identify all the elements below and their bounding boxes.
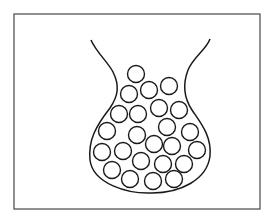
particle-circle [182, 124, 199, 141]
particle-circle [121, 86, 138, 103]
flask-diagram [0, 0, 269, 220]
particle-circle [166, 171, 183, 188]
particle-circle [151, 100, 168, 117]
particle-circle [128, 66, 145, 83]
particle-circle [94, 144, 111, 161]
particle-circle [141, 82, 158, 99]
particle-circle [111, 106, 128, 123]
particle-circle [171, 102, 188, 119]
particle-circle [161, 78, 178, 95]
particle-circle [99, 123, 116, 140]
particle-circle [164, 138, 181, 155]
particle-circle [155, 156, 172, 173]
particle-circle [189, 142, 206, 159]
flask-outline [90, 39, 211, 193]
particles-group [94, 66, 206, 190]
particle-circle [146, 136, 163, 153]
particle-circle [176, 156, 193, 173]
particle-circle [104, 162, 121, 179]
particle-circle [145, 173, 162, 190]
particle-circle [129, 127, 146, 144]
particle-circle [122, 171, 139, 188]
particle-circle [159, 119, 176, 136]
particle-circle [130, 106, 147, 123]
diagram-frame [14, 14, 260, 209]
particle-circle [133, 153, 150, 170]
particle-circle [115, 143, 132, 160]
